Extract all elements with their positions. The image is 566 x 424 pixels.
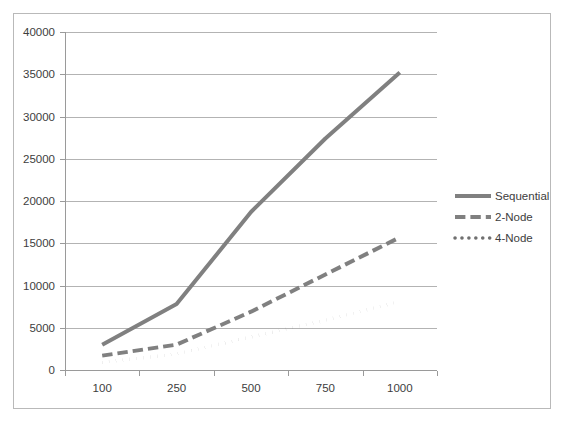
legend-label-2-node: 2-Node <box>495 211 533 223</box>
chart-legend: Sequential2-Node4-Node <box>455 190 549 244</box>
gridlines <box>65 33 437 371</box>
y-tick-label: 40000 <box>23 26 55 38</box>
y-axis-tick-labels: 0500010000150002000025000300003500040000 <box>23 26 55 376</box>
x-tick-label: 250 <box>167 382 186 394</box>
y-tick-label: 5000 <box>29 322 55 334</box>
y-tick-label: 30000 <box>23 111 55 123</box>
y-tick-label: 0 <box>49 364 55 376</box>
axis-tickmarks <box>60 33 438 376</box>
y-tick-label: 20000 <box>23 195 55 207</box>
y-tick-label: 35000 <box>23 68 55 80</box>
data-series-lines <box>102 73 400 363</box>
y-tick-label: 15000 <box>23 237 55 249</box>
x-tick-label: 500 <box>241 382 260 394</box>
y-tick-label: 25000 <box>23 153 55 165</box>
legend-label-sequential: Sequential <box>495 190 549 202</box>
y-tick-label: 10000 <box>23 280 55 292</box>
legend-label-4-node: 4-Node <box>495 232 533 244</box>
series-line-2-node <box>102 237 400 355</box>
x-tick-label: 1000 <box>387 382 413 394</box>
x-axis-tick-labels: 1002505007501000 <box>93 382 413 394</box>
line-chart: 0500010000150002000025000300003500040000… <box>0 0 566 424</box>
chart-figure: 0500010000150002000025000300003500040000… <box>0 0 566 424</box>
series-line-sequential <box>102 73 400 345</box>
x-tick-label: 750 <box>316 382 335 394</box>
x-tick-label: 100 <box>93 382 112 394</box>
